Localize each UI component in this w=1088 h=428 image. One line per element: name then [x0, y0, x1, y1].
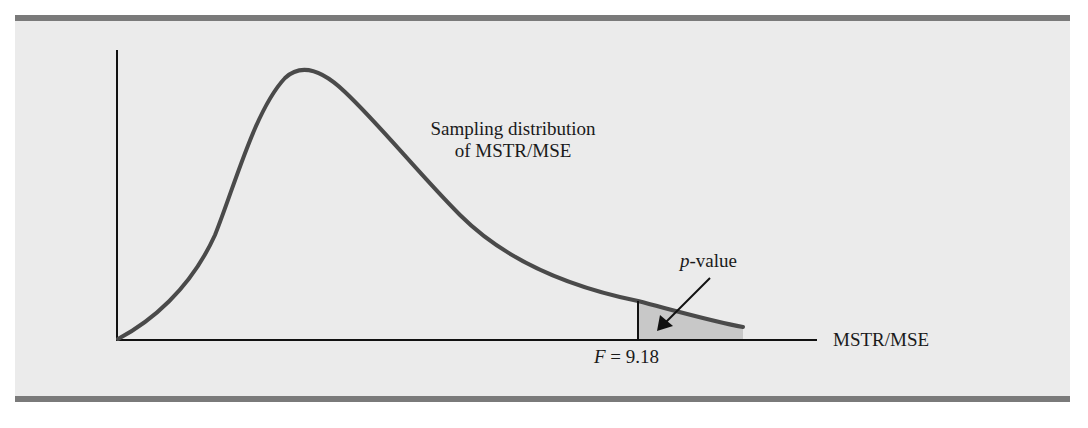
- p-value-text: -value: [690, 250, 737, 271]
- f-distribution-chart: [0, 0, 1088, 428]
- distribution-label-line1: Sampling distribution: [408, 118, 618, 140]
- p-value-label: p-value: [680, 250, 737, 272]
- f-statistic-label: F = 9.18: [594, 346, 659, 368]
- p-value-italic: p: [680, 250, 690, 271]
- x-axis-label: MSTR/MSE: [833, 329, 929, 351]
- f-italic: F: [594, 346, 606, 367]
- distribution-label: Sampling distribution of MSTR/MSE: [408, 118, 618, 162]
- f-value: = 9.18: [606, 346, 659, 367]
- density-curve: [118, 70, 743, 339]
- distribution-label-line2: of MSTR/MSE: [408, 140, 618, 162]
